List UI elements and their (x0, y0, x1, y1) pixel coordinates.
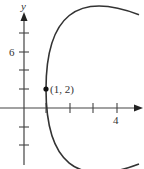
y-axis-label: y (20, 0, 26, 12)
y-axis-arrow-icon (21, 12, 28, 21)
vertex-label: (1, 2) (50, 83, 74, 96)
vertex-point (43, 86, 48, 91)
x-axis-arrow-icon (134, 105, 143, 112)
parabola-chart: y 6 4 (1, 2) (0, 0, 144, 169)
x-tick-label-4: 4 (113, 114, 119, 126)
y-tick-label-6: 6 (9, 46, 15, 58)
